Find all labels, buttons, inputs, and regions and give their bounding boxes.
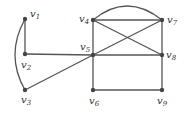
node-v9	[160, 88, 164, 92]
node-v8	[160, 53, 164, 57]
node-v6	[91, 88, 95, 92]
node-v7	[160, 18, 164, 22]
node-v2	[23, 52, 27, 56]
label-v1: v1	[30, 8, 40, 21]
label-v2: v2	[21, 59, 32, 72]
label-v3: v3	[21, 94, 32, 107]
node-v1	[23, 17, 27, 21]
label-v6: v6	[89, 95, 100, 108]
graph-diagram: v1 v2 v3 v4 v5 v6 v7 v8 v9	[0, 0, 187, 114]
edge-v2-v5	[25, 54, 93, 55]
node-v3	[23, 88, 27, 92]
label-v8: v8	[166, 49, 177, 62]
edge-v4-v7-arc	[93, 6, 162, 20]
label-v7: v7	[167, 14, 178, 27]
label-v4: v4	[79, 13, 89, 26]
node-v5	[91, 53, 95, 57]
label-v5: v5	[80, 41, 91, 54]
label-v9: v9	[157, 95, 168, 108]
edge-v3-v5	[25, 55, 93, 90]
node-v4	[91, 18, 95, 22]
